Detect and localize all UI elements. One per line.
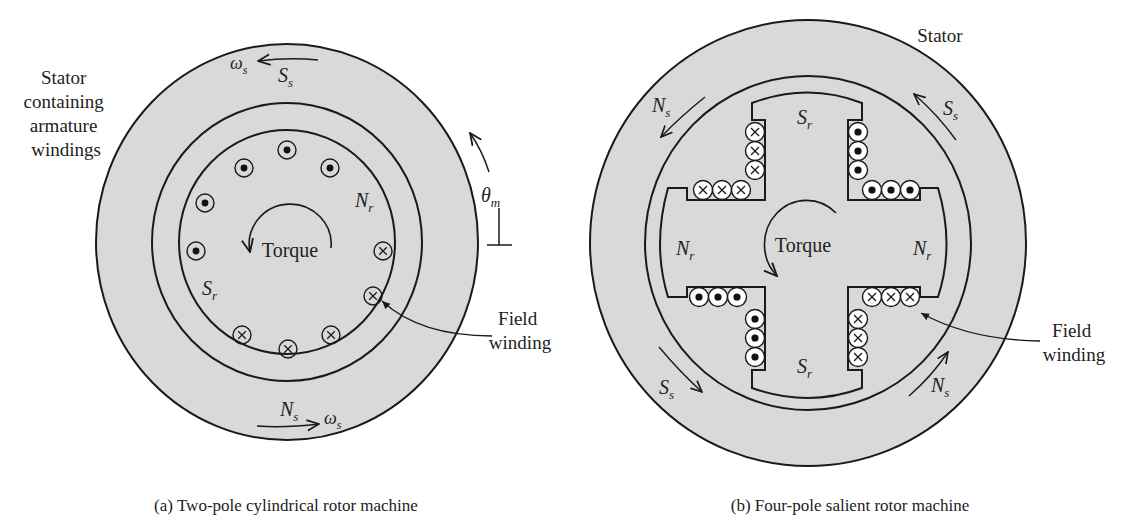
caption-a: (a) Two-pole cylindrical rotor machine bbox=[154, 496, 418, 515]
dot-icon bbox=[284, 147, 291, 154]
dot-icon bbox=[751, 353, 758, 360]
dot-icon bbox=[887, 186, 894, 193]
conductor-in-cross bbox=[713, 181, 732, 200]
dot-icon bbox=[695, 293, 702, 300]
dot-icon bbox=[241, 165, 248, 172]
theta-arrow bbox=[470, 133, 489, 172]
conductor-in-cross bbox=[694, 181, 713, 200]
dot-icon bbox=[202, 200, 209, 207]
conductor-in-cross bbox=[732, 181, 751, 200]
conductor-in-cross bbox=[849, 329, 868, 348]
torque-label: Torque bbox=[262, 239, 318, 262]
theta-label: θm bbox=[481, 184, 500, 210]
conductor-out-dot bbox=[709, 288, 728, 307]
conductor-out-dot bbox=[901, 181, 920, 200]
field-winding-label: Field winding bbox=[489, 308, 552, 353]
conductor-out-dot bbox=[746, 348, 765, 367]
conductor-in-cross bbox=[746, 161, 765, 180]
dot-icon bbox=[751, 334, 758, 341]
dot-icon bbox=[733, 293, 740, 300]
conductor-out-dot bbox=[863, 181, 882, 200]
two-pole-machine: Torque Nr Sr ωs Ss Ns ωs θm Stator conta… bbox=[24, 44, 552, 515]
dot-icon bbox=[906, 186, 913, 193]
caption-b: (b) Four-pole salient rotor machine bbox=[731, 496, 970, 515]
conductor-in-cross bbox=[746, 142, 765, 161]
dot-icon bbox=[854, 128, 861, 135]
conductor-out-dot bbox=[746, 310, 765, 329]
four-pole-machine: Torque Sr Sr Nr Nr Ns Ss Ss Ns Stator Fi… bbox=[590, 20, 1106, 515]
dot-icon bbox=[751, 315, 758, 322]
dot-icon bbox=[854, 166, 861, 173]
conductor-out-dot bbox=[746, 329, 765, 348]
dot-icon bbox=[714, 293, 721, 300]
conductor-out-dot bbox=[882, 181, 901, 200]
conductor-out-dot bbox=[690, 288, 709, 307]
dot-icon bbox=[327, 165, 334, 172]
conductor-in-cross bbox=[849, 348, 868, 367]
conductor-out-dot bbox=[849, 161, 868, 180]
dot-icon bbox=[854, 147, 861, 154]
stator-label: Stator bbox=[917, 25, 963, 46]
dot-icon bbox=[193, 248, 200, 255]
dot-icon bbox=[868, 186, 875, 193]
conductor-in-cross bbox=[849, 310, 868, 329]
conductor-in-cross bbox=[746, 123, 765, 142]
synchronous-machines-figure: Torque Nr Sr ωs Ss Ns ωs θm Stator conta… bbox=[0, 0, 1130, 529]
conductor-in-cross bbox=[901, 288, 920, 307]
conductor-in-cross bbox=[882, 288, 901, 307]
torque-label: Torque bbox=[775, 234, 831, 257]
field-winding-label: Field winding bbox=[1043, 320, 1106, 365]
conductor-in-cross bbox=[863, 288, 882, 307]
conductor-out-dot bbox=[728, 288, 747, 307]
conductor-out-dot bbox=[849, 123, 868, 142]
conductor-out-dot bbox=[849, 142, 868, 161]
stator-description-label: Stator containing armature windings bbox=[24, 67, 109, 160]
